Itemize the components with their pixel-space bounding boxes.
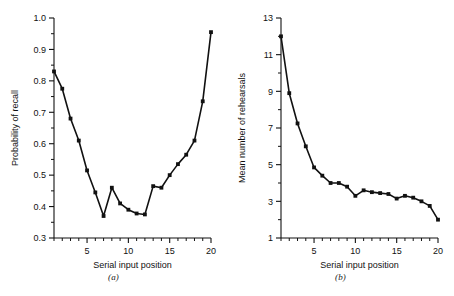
figure-container: 0.30.40.50.60.70.80.91.05101520Serial in… <box>0 0 454 296</box>
data-point <box>110 186 114 190</box>
data-point <box>345 185 349 189</box>
data-point <box>184 153 188 157</box>
x-tick-label: 15 <box>392 246 402 256</box>
y-axis-title: Mean number of rehearsals <box>237 72 247 183</box>
data-point <box>403 194 407 198</box>
data-point <box>395 197 399 201</box>
x-tick-label: 15 <box>165 246 175 256</box>
y-tick-label: 11 <box>264 50 273 60</box>
panel-a-caption: (a) <box>0 272 227 282</box>
data-point <box>287 91 291 95</box>
data-point <box>201 99 205 103</box>
data-point <box>77 139 81 143</box>
y-tick-label: 0.5 <box>33 170 46 180</box>
y-tick-label: 1.0 <box>33 13 46 23</box>
data-point <box>135 212 139 216</box>
x-tick-label: 10 <box>350 246 360 256</box>
y-tick-label: 0.8 <box>33 76 46 86</box>
y-axis-title: Probability of recall <box>10 90 20 166</box>
x-axis-title: Serial input position <box>320 260 399 270</box>
data-line <box>54 32 211 216</box>
data-point <box>126 208 130 212</box>
data-point <box>102 214 106 218</box>
y-tick-label: 0.6 <box>33 139 46 149</box>
y-tick-label: 7 <box>268 123 273 133</box>
data-point <box>420 199 424 203</box>
data-point <box>428 204 432 208</box>
data-point <box>168 173 172 177</box>
data-point <box>362 188 366 192</box>
data-point <box>160 186 164 190</box>
plot-group: 1357911135101520Serial input positionMea… <box>237 13 443 270</box>
data-point <box>329 181 333 185</box>
data-point <box>93 191 97 195</box>
y-tick-label: 3 <box>268 197 273 207</box>
y-tick-label: 0.7 <box>33 108 46 118</box>
y-tick-label: 0.3 <box>33 233 46 243</box>
data-point <box>60 87 64 91</box>
data-point <box>143 213 147 217</box>
data-point <box>193 139 197 143</box>
data-point <box>69 117 73 121</box>
y-tick-label: 5 <box>268 160 273 170</box>
x-tick-label: 5 <box>312 246 317 256</box>
y-tick-label: 0.4 <box>33 202 46 212</box>
y-tick-label: 0.9 <box>33 45 46 55</box>
panel-b: 1357911135101520Serial input positionMea… <box>227 0 454 296</box>
y-tick-label: 1 <box>268 233 273 243</box>
data-point <box>118 202 122 206</box>
data-point <box>52 70 56 74</box>
y-tick-label: 9 <box>268 87 273 97</box>
data-point <box>320 174 324 178</box>
data-point <box>209 30 213 34</box>
chart-b: 1357911135101520Serial input positionMea… <box>227 0 454 272</box>
data-point <box>436 218 440 222</box>
data-point <box>312 166 316 170</box>
data-point <box>151 184 155 188</box>
x-tick-label: 20 <box>206 246 216 256</box>
data-point <box>387 192 391 196</box>
chart-a: 0.30.40.50.60.70.80.91.05101520Serial in… <box>0 0 227 272</box>
x-tick-label: 20 <box>433 246 443 256</box>
data-point <box>370 190 374 194</box>
data-point <box>411 196 415 200</box>
panel-a: 0.30.40.50.60.70.80.91.05101520Serial in… <box>0 0 227 296</box>
data-point <box>296 122 300 126</box>
data-point <box>304 144 308 148</box>
data-point <box>337 181 341 185</box>
plot-group: 0.30.40.50.60.70.80.91.05101520Serial in… <box>10 13 216 270</box>
panel-b-caption: (b) <box>227 272 454 282</box>
data-point <box>279 34 283 38</box>
data-point <box>176 162 180 166</box>
x-tick-label: 10 <box>123 246 133 256</box>
data-line <box>281 36 438 219</box>
x-tick-label: 5 <box>85 246 90 256</box>
x-axis-title: Serial input position <box>93 260 172 270</box>
data-point <box>85 169 89 173</box>
data-point <box>378 191 382 195</box>
y-tick-label: 13 <box>263 13 273 23</box>
data-point <box>353 194 357 198</box>
